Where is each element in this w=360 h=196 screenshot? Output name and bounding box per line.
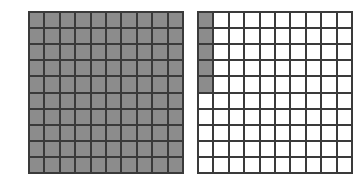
grid-cell (121, 28, 136, 44)
grid-cell (106, 44, 121, 60)
grid-cell (337, 93, 352, 109)
grid-cell (137, 109, 152, 125)
grid-cell (198, 141, 213, 157)
grid-cell (306, 93, 321, 109)
grid-cell (229, 28, 244, 44)
grid-cell (29, 125, 44, 141)
grid-cell (321, 76, 336, 92)
right-hundred-grid (197, 11, 353, 174)
grid-cell (290, 44, 305, 60)
grid-cell (44, 28, 59, 44)
grid-cell (244, 12, 259, 28)
grid-cell (321, 109, 336, 125)
grid-cell (306, 12, 321, 28)
grid-cell (244, 44, 259, 60)
grid-cell (75, 28, 90, 44)
grid-cell (260, 157, 275, 173)
grid-cell (137, 93, 152, 109)
grid-cell (229, 93, 244, 109)
grid-cell (306, 28, 321, 44)
grid-cell (337, 28, 352, 44)
grid-cell (213, 44, 228, 60)
grid-cell (91, 93, 106, 109)
grid-cell (106, 141, 121, 157)
grid-cell (91, 125, 106, 141)
grid-cell (91, 157, 106, 173)
grid-cell (60, 157, 75, 173)
grid-cell (60, 60, 75, 76)
grid-cell (137, 125, 152, 141)
grid-cell (29, 76, 44, 92)
grid-cell (275, 44, 290, 60)
grid-cell (91, 44, 106, 60)
grid-cell (229, 12, 244, 28)
grid-cell (260, 76, 275, 92)
grid-cell (260, 93, 275, 109)
grid-cell (290, 60, 305, 76)
grid-cell (321, 93, 336, 109)
grid-cell (106, 109, 121, 125)
grid-cell (321, 125, 336, 141)
grid-cell (121, 12, 136, 28)
grid-cell (321, 60, 336, 76)
grid-cell (91, 12, 106, 28)
grid-cell (306, 76, 321, 92)
grid-cell (337, 12, 352, 28)
grid-cell (121, 125, 136, 141)
grid-cell (290, 12, 305, 28)
grid-cell (60, 76, 75, 92)
grid-cell (137, 76, 152, 92)
grid-cell (106, 93, 121, 109)
grid-cell (29, 93, 44, 109)
grid-cell (91, 76, 106, 92)
grid-cell (75, 125, 90, 141)
grid-cell (260, 12, 275, 28)
grid-cell (213, 76, 228, 92)
grid-cell (137, 157, 152, 173)
grid-cell (198, 157, 213, 173)
grid-cell (29, 157, 44, 173)
grid-cell (229, 44, 244, 60)
grid-cell (213, 93, 228, 109)
grid-cell (60, 93, 75, 109)
grid-cell (290, 76, 305, 92)
grid-cell (260, 109, 275, 125)
grid-cell (75, 93, 90, 109)
grid-cell (137, 28, 152, 44)
grid-cell (244, 76, 259, 92)
grid-cell (44, 109, 59, 125)
grid-cell (44, 157, 59, 173)
grid-cell (213, 28, 228, 44)
grid-cell (121, 93, 136, 109)
grid-cell (275, 76, 290, 92)
grid-cell (121, 157, 136, 173)
grid-cell (275, 157, 290, 173)
grid-cell (44, 12, 59, 28)
grid-cell (152, 157, 167, 173)
grid-cell (275, 125, 290, 141)
grid-cell (275, 28, 290, 44)
grid-cell (321, 12, 336, 28)
grid-cell (152, 93, 167, 109)
grid-cell (244, 93, 259, 109)
grid-cell (306, 60, 321, 76)
grid-cell (106, 12, 121, 28)
grid-cell (306, 109, 321, 125)
grid-cell (29, 28, 44, 44)
grid-cell (44, 60, 59, 76)
grid-cell (121, 60, 136, 76)
grid-cell (321, 141, 336, 157)
grid-cell (60, 44, 75, 60)
grid-cell (260, 44, 275, 60)
grid-cell (321, 157, 336, 173)
grid-cell (198, 44, 213, 60)
grid-cell (290, 125, 305, 141)
grid-cell (44, 93, 59, 109)
grid-cell (75, 157, 90, 173)
grid-cell (168, 76, 183, 92)
grid-cell (275, 12, 290, 28)
grid-cell (337, 125, 352, 141)
grid-cell (168, 109, 183, 125)
grid-cell (290, 141, 305, 157)
grid-cell (290, 109, 305, 125)
